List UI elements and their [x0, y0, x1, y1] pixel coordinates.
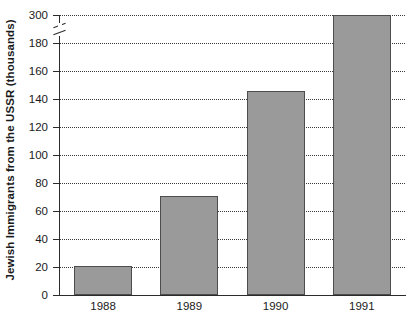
axis-break-mask: [58, 23, 62, 36]
y-axis-tick-label: 160: [29, 65, 48, 77]
x-axis-category-label: 1988: [63, 300, 143, 312]
y-axis-tick-label: 0: [42, 289, 48, 301]
y-axis-title: Jewish Immigrants from the USSR (thousan…: [4, 19, 16, 280]
bar: [333, 15, 391, 295]
x-axis-category-label: 1990: [236, 300, 316, 312]
y-axis-tick-label: 140: [29, 93, 48, 105]
y-axis-tick-label: 20: [35, 261, 48, 273]
y-axis-tick: [53, 155, 60, 156]
y-axis-tick-label: 100: [29, 149, 48, 161]
y-axis-tick: [53, 15, 60, 16]
y-axis-tick-label: 120: [29, 121, 48, 133]
plot-area: [60, 15, 405, 295]
bar: [160, 196, 218, 295]
bar: [74, 266, 132, 295]
x-axis-category-label: 1991: [322, 300, 402, 312]
y-axis-tick-label: 180: [29, 37, 48, 49]
y-axis-tick: [53, 211, 60, 212]
y-axis-tick: [53, 183, 60, 184]
y-axis-tick: [53, 267, 60, 268]
y-axis-tick: [53, 99, 60, 100]
y-axis-tick-label: 40: [35, 233, 48, 245]
x-axis-category-label: 1989: [149, 300, 229, 312]
y-axis-tick: [53, 43, 60, 44]
y-axis-tick: [53, 71, 60, 72]
y-axis-tick-label: 60: [35, 205, 48, 217]
bar-chart-figure: Jewish Immigrants from the USSR (thousan…: [0, 0, 412, 322]
x-axis-line: [59, 295, 406, 296]
bar: [247, 91, 305, 295]
y-axis-tick: [53, 239, 60, 240]
y-axis-break-icon: [53, 22, 66, 37]
y-axis-tick-label: 300: [29, 9, 48, 21]
y-axis-tick: [53, 127, 60, 128]
y-axis-tick: [53, 295, 60, 296]
y-axis-title-container: Jewish Immigrants from the USSR (thousan…: [0, 0, 20, 300]
y-axis-tick-label: 80: [35, 177, 48, 189]
